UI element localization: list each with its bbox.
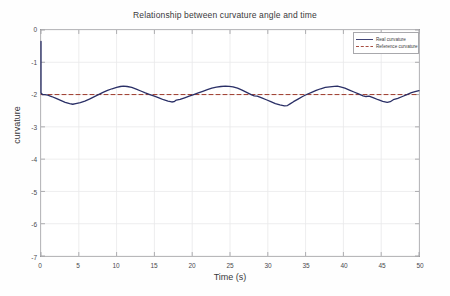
x-tick-label: 40 (340, 262, 347, 269)
y-axis-tick-labels: 0-1-2-3-4-5-6-7 (22, 29, 37, 257)
x-tick-label: 25 (226, 262, 233, 269)
x-tick-label: 10 (112, 262, 119, 269)
y-tick-label: 0 (33, 26, 37, 33)
x-tick-label: 45 (378, 262, 385, 269)
legend-item-real-curvature: Real curvature (356, 36, 416, 43)
x-tick-label: 50 (416, 262, 423, 269)
x-axis-tick-labels: 05101520253035404550 (40, 259, 420, 269)
y-tick-label: -7 (31, 254, 37, 261)
x-tick-label: 15 (150, 262, 157, 269)
x-tick-label: 0 (38, 262, 42, 269)
y-tick-label: -4 (31, 156, 37, 163)
y-tick-label: -3 (31, 123, 37, 130)
y-tick-label: -5 (31, 188, 37, 195)
dashed-line-swatch (356, 44, 373, 49)
x-axis-label: Time (s) (40, 272, 420, 282)
legend-item-reference-curvature: Reference curvature (356, 43, 416, 50)
legend-label-reference-curvature: Reference curvature (376, 44, 418, 49)
real-curvature-line (41, 30, 419, 256)
x-tick-label: 5 (76, 262, 80, 269)
chart-figure: Relationship between curvature angle and… (0, 0, 450, 296)
y-tick-label: -6 (31, 221, 37, 228)
y-tick-label: -2 (31, 91, 37, 98)
y-tick-label: -1 (31, 58, 37, 65)
legend-label-real-curvature: Real curvature (376, 37, 406, 42)
x-tick-label: 30 (264, 262, 271, 269)
y-axis-label: curvature (12, 80, 22, 170)
chart-title: Relationship between curvature angle and… (0, 10, 450, 20)
plot-area (40, 29, 420, 257)
solid-line-swatch (356, 37, 373, 42)
x-tick-label: 20 (188, 262, 195, 269)
x-tick-label: 35 (302, 262, 309, 269)
chart-legend: Real curvature Reference curvature (353, 32, 419, 54)
